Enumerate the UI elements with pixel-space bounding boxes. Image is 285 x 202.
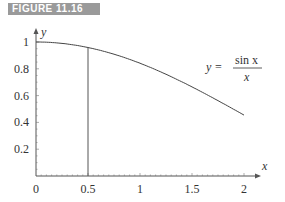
x-tick-label: 0 [33, 182, 39, 196]
x-axis-arrow [255, 174, 261, 179]
x-axis-label: x [261, 159, 268, 173]
equation-denominator: x [243, 70, 250, 84]
y-tick-label: 0.8 [14, 62, 29, 76]
y-tick-label: 0.2 [14, 142, 29, 156]
x-tick-label: 1 [137, 182, 143, 196]
x-tick-label: 0.5 [81, 182, 96, 196]
x-tick-label: 2 [241, 182, 247, 196]
equation-lhs: y = [205, 60, 222, 74]
x-tick-label: 1.5 [185, 182, 200, 196]
y-tick-label: 0.4 [14, 115, 29, 129]
chart: 00.511.520.20.40.60.81xy y = sin x x [0, 0, 285, 202]
y-axis-label: y [40, 25, 47, 39]
equation-annotation: y = sin x x [205, 53, 262, 84]
series-line-sinx-over-x [36, 42, 244, 115]
y-tick-label: 1 [23, 35, 29, 49]
y-tick-label: 0.6 [14, 89, 29, 103]
equation-numerator: sin x [235, 53, 258, 67]
y-axis-arrow [34, 28, 39, 34]
